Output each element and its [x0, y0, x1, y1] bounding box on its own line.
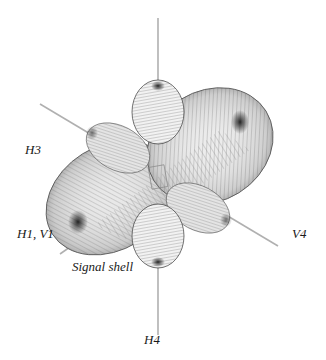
signal-shell-figure: H3 H1, V1 V4 Signal shell H4	[0, 0, 326, 360]
label-h1-v1: H1, V1	[17, 226, 54, 242]
label-v4: V4	[292, 226, 306, 242]
label-h4: H4	[144, 332, 160, 348]
lobe-top	[132, 80, 184, 144]
wireframe-diagram	[0, 0, 326, 360]
label-signal-shell: Signal shell	[72, 259, 133, 275]
lobe-bottom	[132, 204, 184, 268]
label-h3: H3	[25, 142, 41, 158]
